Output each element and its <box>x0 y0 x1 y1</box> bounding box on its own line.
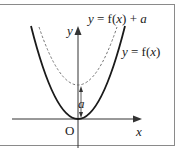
y-axis-label: y <box>67 24 73 37</box>
shift-arrow-up-icon <box>79 86 83 92</box>
x-axis-arrow-icon <box>133 116 142 123</box>
y-axis-arrow-icon <box>75 26 82 35</box>
x-axis-label: x <box>136 125 142 138</box>
base-curve-label: y = f(x) <box>122 45 160 58</box>
origin-label: O <box>65 124 74 137</box>
shift-arrow-down-icon <box>79 112 83 118</box>
shifted-curve-label: y = f(x) + a <box>88 12 147 25</box>
shift-label: a <box>78 97 85 110</box>
